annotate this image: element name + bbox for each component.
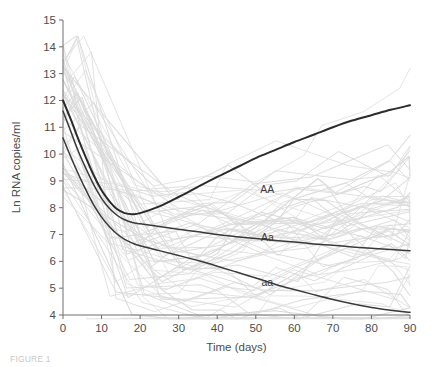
y-axis-tick-label: 10	[43, 148, 56, 160]
viral-load-chart: 4567891011121314150102030405060708090Tim…	[0, 0, 438, 367]
y-axis-tick-label: 15	[43, 14, 56, 26]
x-axis-tick-label: 70	[326, 322, 339, 334]
figure-caption-text: FIGURE 1	[10, 355, 310, 364]
x-axis-tick-label: 20	[134, 322, 147, 334]
x-axis-tick-label: 40	[211, 322, 224, 334]
x-axis-tick-label: 90	[404, 322, 417, 334]
y-axis-tick-label: 8	[50, 202, 56, 214]
y-axis-tick-label: 6	[50, 255, 56, 267]
y-axis-tick-label: 12	[43, 94, 56, 106]
y-axis-tick-label: 7	[50, 229, 56, 241]
y-axis-tick-label: 14	[43, 41, 56, 53]
curve-label-AA: AA	[260, 183, 274, 195]
curve-label-aa: aa	[262, 276, 274, 288]
y-axis-tick-label: 11	[44, 121, 56, 133]
curve-label-Aa: Aa	[261, 231, 274, 243]
x-axis-tick-label: 80	[365, 322, 378, 334]
patient-trajectory-lines	[63, 36, 410, 319]
y-axis-tick-label: 9	[50, 175, 56, 187]
y-axis-tick-label: 4	[50, 309, 57, 321]
x-axis-tick-label: 60	[288, 322, 301, 334]
figure-container: 4567891011121314150102030405060708090Tim…	[0, 0, 438, 367]
x-axis-tick-label: 30	[172, 322, 185, 334]
y-axis-tick-label: 5	[50, 282, 56, 294]
y-axis-tick-label: 13	[43, 68, 56, 80]
x-axis-tick-label: 10	[95, 322, 108, 334]
x-axis-title: Time (days)	[206, 341, 266, 353]
x-axis-tick-label: 0	[60, 322, 66, 334]
x-axis-tick-label: 50	[249, 322, 262, 334]
figure-caption: FIGURE 1	[10, 355, 310, 364]
y-axis-title: Ln RNA copies/ml	[10, 122, 22, 213]
